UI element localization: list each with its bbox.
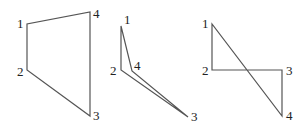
vertex-label-3: 3 (191, 109, 198, 123)
vertex-label-1: 1 (202, 16, 209, 31)
vertex-label-3: 3 (286, 63, 293, 78)
quadrilaterals-diagram: 1 2 3 4 1 2 3 4 1 2 3 4 (0, 0, 306, 123)
vertex-label-2: 2 (17, 64, 24, 79)
self-intersecting-quadrilateral-outline (212, 24, 282, 116)
vertex-label-4: 4 (93, 6, 100, 21)
figure-convex: 1 2 3 4 (17, 6, 100, 123)
vertex-label-3: 3 (93, 108, 100, 123)
vertex-label-2: 2 (110, 63, 117, 78)
vertex-label-4: 4 (286, 108, 293, 123)
vertex-label-1: 1 (17, 16, 24, 31)
figure-concave: 1 2 3 4 (110, 12, 198, 123)
vertex-label-2: 2 (202, 63, 209, 78)
concave-quadrilateral-outline (121, 26, 188, 117)
figure-self-intersecting: 1 2 3 4 (202, 16, 293, 123)
vertex-label-4: 4 (134, 58, 141, 73)
vertex-label-1: 1 (124, 12, 131, 27)
convex-quadrilateral-outline (27, 12, 90, 116)
